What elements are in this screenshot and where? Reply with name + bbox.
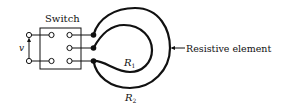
switch-contact: [49, 58, 54, 63]
r2-subscript: 2: [133, 97, 137, 104]
input-terminal-top: [26, 32, 31, 37]
switch-contact: [67, 45, 72, 50]
input-terminal-bottom: [26, 58, 31, 63]
r1-subscript: 1: [132, 62, 136, 69]
resistive-element-inner: [94, 25, 153, 72]
resistive-element-label: Resistive element: [186, 43, 271, 54]
switch-contact: [67, 32, 72, 37]
circuit-diagram: Switch v R 1 R 2 Resistive element: [0, 0, 290, 107]
switch-label: Switch: [45, 13, 80, 24]
voltage-label: v: [19, 43, 24, 53]
switch-contact: [67, 58, 72, 63]
switch-contact: [49, 32, 54, 37]
resistive-element-outer: [94, 8, 171, 88]
